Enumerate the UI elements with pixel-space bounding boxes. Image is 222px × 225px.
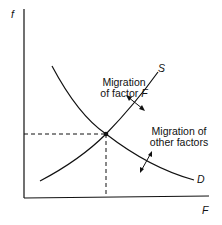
x-axis-label: F [202, 205, 208, 216]
demand-curve-label: D [197, 174, 205, 185]
migration-factor-annotation: Migration of factor F [88, 77, 160, 99]
diagram-canvas [0, 0, 222, 225]
equilibrium-point [104, 132, 109, 137]
x-axis [24, 196, 209, 198]
migration-other-line2: other factors [148, 137, 210, 148]
supply-curve-label: S [158, 63, 165, 74]
migration-other-annotation: Migration of other factors [148, 126, 210, 148]
migration-factor-line2: of factor F [88, 88, 160, 99]
y-axis-label: f [11, 9, 14, 20]
